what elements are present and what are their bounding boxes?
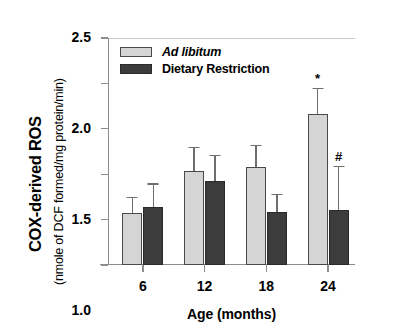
- y-tick: 1.5: [101, 128, 108, 129]
- x-tick-label: 24: [320, 278, 336, 294]
- bar: [267, 212, 287, 265]
- x-tick: [266, 265, 267, 272]
- x-tick-label: 12: [197, 278, 213, 294]
- error-bar: [153, 183, 154, 207]
- error-bar-cap: [127, 197, 138, 198]
- error-bar-cap: [148, 183, 159, 184]
- bar: [122, 213, 142, 265]
- legend-label-ad-libitum: Ad libitum: [162, 45, 221, 59]
- y-tick: 1.0: [101, 174, 108, 175]
- y-axis-title-group: COX-derived ROS (nmole of DCF formed/mg …: [0, 0, 70, 300]
- error-bar: [255, 145, 256, 167]
- error-bar-cap: [271, 194, 282, 195]
- error-bar-cap: [312, 88, 323, 89]
- y-tick: 2.0: [101, 83, 108, 84]
- x-tick: [327, 265, 328, 272]
- bar: [184, 171, 204, 265]
- y-tick: 0.0: [101, 264, 108, 265]
- x-tick: [204, 265, 205, 272]
- bar: [329, 210, 349, 265]
- legend-label-dietary-restriction: Dietary Restriction: [162, 62, 269, 76]
- error-bar: [276, 194, 277, 212]
- y-tick-label: 2.0: [72, 120, 91, 136]
- error-bar-cap: [189, 147, 200, 148]
- significance-marker: #: [335, 150, 342, 163]
- y-axis-line: [108, 38, 109, 265]
- error-bar: [193, 147, 194, 172]
- legend-swatch-dietary-restriction: [120, 64, 152, 74]
- bar: [246, 167, 266, 265]
- x-tick-label: 18: [259, 278, 275, 294]
- legend-swatch-ad-libitum: [120, 47, 152, 57]
- error-bar: [214, 155, 215, 181]
- y-tick: .5: [101, 219, 108, 220]
- y-tick-label: 1.0: [72, 302, 91, 318]
- error-bar: [317, 88, 318, 114]
- y-tick-label: 1.5: [72, 211, 91, 227]
- x-tick-label: 6: [139, 278, 147, 294]
- plot-top-border: [108, 38, 355, 39]
- error-bar: [132, 197, 133, 213]
- significance-marker: *: [315, 72, 320, 85]
- x-tick: [142, 265, 143, 272]
- y-axis-units-label: (nmole of DCF formed/mg protein/min): [52, 78, 66, 285]
- figure: COX-derived ROS (nmole of DCF formed/mg …: [0, 0, 403, 336]
- y-tick-label: 2.5: [72, 29, 91, 45]
- y-tick: 2.5: [101, 37, 108, 38]
- error-bar: [338, 166, 339, 210]
- x-axis-title: Age (months): [108, 306, 355, 322]
- error-bar-cap: [210, 155, 221, 156]
- legend: Ad libitum Dietary Restriction: [120, 44, 269, 78]
- error-bar-cap: [333, 166, 344, 167]
- y-axis-title: COX-derived ROS: [26, 116, 45, 252]
- legend-item-ad-libitum: Ad libitum: [120, 44, 269, 59]
- bar: [308, 114, 328, 265]
- plot-area: 0.0.51.01.52.02.5 6121824 *# Ad libitum …: [108, 38, 355, 265]
- bar: [205, 181, 225, 265]
- bar: [143, 207, 163, 265]
- error-bar-cap: [250, 145, 261, 146]
- legend-item-dietary-restriction: Dietary Restriction: [120, 61, 269, 76]
